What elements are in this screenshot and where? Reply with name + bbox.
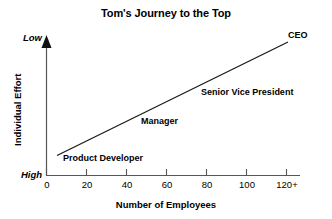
x-tick-label-80: 80 xyxy=(192,180,222,190)
y-axis-arrowhead xyxy=(42,35,52,48)
x-tick-label-0: 0 xyxy=(32,180,62,190)
trajectory-line xyxy=(57,42,288,156)
x-axis xyxy=(46,169,300,176)
y-axis-title: Individual Effort xyxy=(13,60,23,160)
annotation-manager: Manager xyxy=(140,117,179,126)
x-tick-label-100: 100 xyxy=(232,180,262,190)
x-tick-label-40: 40 xyxy=(112,180,142,190)
annotation-ceo: CEO xyxy=(287,31,309,40)
y-axis-top-label: Low xyxy=(20,33,42,43)
annotation-product-developer: Product Developer xyxy=(62,154,144,163)
y-axis-bottom-label: High xyxy=(14,170,42,180)
x-tick-label-120plus: 120+ xyxy=(272,180,302,190)
x-tick-label-60: 60 xyxy=(152,180,182,190)
chart-figure: Tom's Journey to the Top Low High Indivi xyxy=(0,0,332,219)
x-axis-ticks xyxy=(47,169,287,175)
x-axis-title: Number of Employees xyxy=(0,200,332,210)
annotation-senior-vice-president: Senior Vice President xyxy=(200,88,294,97)
y-axis xyxy=(42,35,52,175)
x-tick-label-20: 20 xyxy=(72,180,102,190)
